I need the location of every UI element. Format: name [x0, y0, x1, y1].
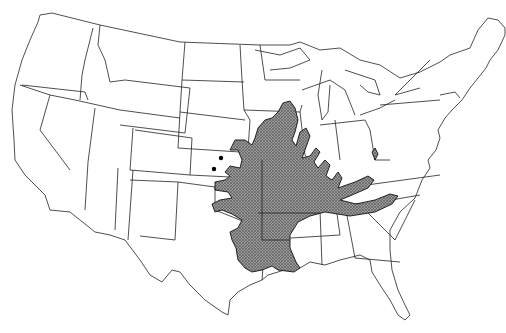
us-distribution-map [0, 0, 506, 333]
record-dot [219, 156, 223, 160]
record-dot [212, 167, 216, 171]
